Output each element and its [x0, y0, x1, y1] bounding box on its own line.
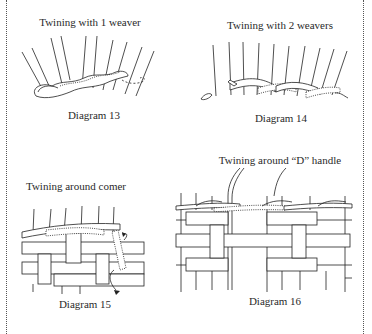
diagram-14-drawing	[201, 42, 348, 100]
diagram-15-drawing	[22, 206, 144, 295]
diagram-13-drawing	[22, 36, 154, 98]
diagram-illustrations	[0, 0, 372, 334]
diagram-16-drawing	[176, 168, 352, 292]
